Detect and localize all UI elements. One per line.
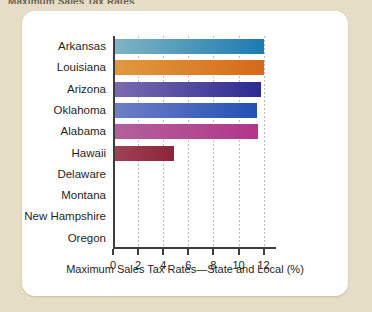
category-label: Alabama bbox=[61, 121, 106, 142]
x-tick bbox=[137, 249, 139, 255]
figure-title: Maximum Sales Tax Rates bbox=[8, 0, 135, 4]
category-label: Montana bbox=[61, 185, 106, 206]
plot-area: 024681012 ArkansasLouisianaArizonaOklaho… bbox=[113, 36, 300, 249]
category-label: Oklahoma bbox=[54, 100, 106, 121]
bar-row: Alabama bbox=[115, 121, 258, 142]
bar bbox=[115, 39, 264, 54]
bar bbox=[115, 124, 258, 139]
category-label: Delaware bbox=[57, 164, 106, 185]
bar bbox=[115, 60, 264, 75]
category-label: Hawaii bbox=[71, 143, 106, 164]
category-label: Louisiana bbox=[57, 57, 106, 78]
x-tick bbox=[112, 249, 114, 255]
category-label: New Hampshire bbox=[24, 206, 106, 227]
bar-row: Arizona bbox=[115, 79, 261, 100]
chart-card: 024681012 ArkansasLouisianaArizonaOklaho… bbox=[22, 11, 348, 296]
bar-row: Louisiana bbox=[115, 57, 264, 78]
x-tick bbox=[212, 249, 214, 255]
bar bbox=[115, 103, 257, 118]
bar-row: Hawaii bbox=[115, 143, 174, 164]
category-label: Arizona bbox=[67, 79, 106, 100]
x-tick bbox=[238, 249, 240, 255]
x-tick bbox=[263, 249, 265, 255]
x-tick bbox=[187, 249, 189, 255]
x-tick bbox=[162, 249, 164, 255]
gridline bbox=[264, 36, 265, 247]
bar bbox=[115, 146, 174, 161]
category-label: Oregon bbox=[68, 228, 106, 249]
bar-row: Oklahoma bbox=[115, 100, 257, 121]
bar-row: Arkansas bbox=[115, 36, 264, 57]
x-axis-title: Maximum Sales Tax Rates—State and Local … bbox=[22, 263, 348, 275]
category-label: Arkansas bbox=[58, 36, 106, 57]
bar bbox=[115, 82, 261, 97]
